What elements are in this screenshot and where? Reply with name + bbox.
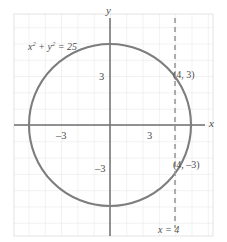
circle-line-graph-figure: x2 + y2 = 25 y x 3 –3 –3 3 (4, 3) (4, –3… (0, 0, 227, 242)
coordinate-plane (0, 0, 227, 242)
